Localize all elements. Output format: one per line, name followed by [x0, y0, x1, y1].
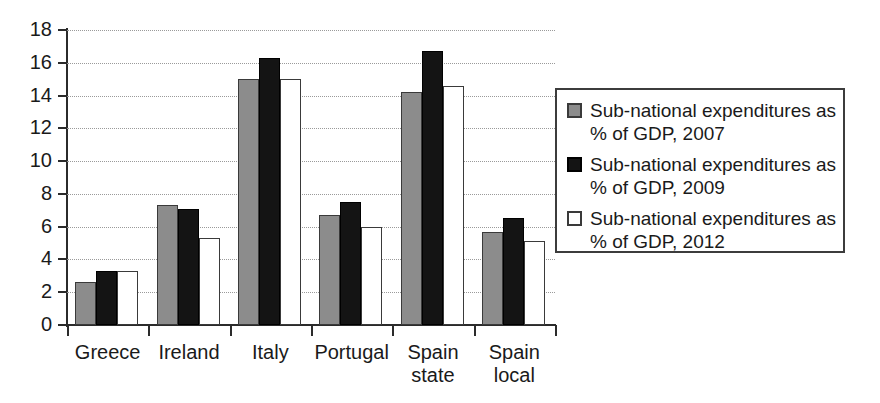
gray-swatch-icon [567, 103, 582, 118]
bar-group [401, 30, 464, 325]
x-axis-category-label: Spainlocal [474, 341, 555, 387]
legend-item[interactable]: Sub-national expenditures as % of GDP, 2… [567, 153, 843, 199]
y-axis-tick [58, 127, 67, 129]
bar [443, 86, 464, 325]
x-axis-tick [230, 325, 232, 336]
x-axis-tick [555, 325, 557, 336]
y-axis-tick [58, 95, 67, 97]
y-axis-tick-label: 0 [4, 314, 52, 334]
bar [199, 238, 220, 325]
legend-item-label: Sub-national expenditures as % of GDP, 2… [590, 207, 838, 253]
x-axis-tick [148, 325, 150, 336]
bar-group [319, 30, 382, 325]
bar [503, 218, 524, 325]
y-axis-tick [58, 291, 67, 293]
bar [280, 79, 301, 325]
bar-chart-figure: 024681012141618 GreeceIrelandItalyPortug… [0, 0, 880, 403]
bar [361, 227, 382, 325]
y-axis-tick-label: 16 [4, 52, 52, 72]
bar [482, 232, 503, 325]
bar-group [157, 30, 220, 325]
bar [259, 58, 280, 325]
x-axis-tick [311, 325, 313, 336]
y-axis-tick [58, 226, 67, 228]
black-swatch-icon [567, 157, 582, 172]
x-axis-category-line: Portugal [311, 341, 392, 364]
y-axis-tick-label: 6 [4, 216, 52, 236]
x-axis-category-line: Greece [67, 341, 148, 364]
bar [401, 92, 422, 325]
y-axis-labels: 024681012141618 [0, 0, 52, 403]
x-axis-category-line: state [392, 364, 473, 387]
x-axis-category-label: Portugal [311, 341, 392, 364]
y-axis-tick [58, 258, 67, 260]
bar [117, 271, 138, 325]
x-axis-category-line: Spain [392, 341, 473, 364]
bar [75, 282, 96, 325]
y-axis-tick-label: 12 [4, 117, 52, 137]
bar [524, 241, 545, 325]
x-axis-category-line: local [474, 364, 555, 387]
bar-group [238, 30, 301, 325]
y-axis-tick [58, 193, 67, 195]
legend-item-label: Sub-national expenditures as % of GDP, 2… [590, 153, 838, 199]
y-axis-tick-label: 18 [4, 19, 52, 39]
x-axis-category-line: Italy [230, 341, 311, 364]
legend-item-label: Sub-national expenditures as % of GDP, 2… [590, 99, 838, 145]
x-axis-category-label: Spainstate [392, 341, 473, 387]
x-axis-category-label: Italy [230, 341, 311, 364]
y-axis-tick-label: 8 [4, 183, 52, 203]
y-axis-tick-label: 10 [4, 150, 52, 170]
legend-item[interactable]: Sub-national expenditures as % of GDP, 2… [567, 207, 843, 253]
y-axis-tick [58, 62, 67, 64]
y-axis-tick [58, 324, 67, 326]
bar-group [75, 30, 138, 325]
legend-item[interactable]: Sub-national expenditures as % of GDP, 2… [567, 99, 843, 145]
bar [319, 215, 340, 325]
y-axis-tick-label: 14 [4, 85, 52, 105]
y-axis-tick-label: 2 [4, 281, 52, 301]
x-axis-category-line: Spain [474, 341, 555, 364]
x-axis-category-label: Ireland [148, 341, 229, 364]
x-axis-tick [392, 325, 394, 336]
x-axis-tick [67, 325, 69, 336]
bar [96, 271, 117, 325]
plot-area [67, 30, 555, 325]
x-axis-category-label: Greece [67, 341, 148, 364]
bar [422, 51, 443, 325]
bar [340, 202, 361, 325]
y-axis-tick [58, 29, 67, 31]
x-axis-tick [474, 325, 476, 336]
chart-legend: Sub-national expenditures as % of GDP, 2… [555, 88, 845, 253]
bar [178, 209, 199, 325]
white-swatch-icon [567, 211, 582, 226]
y-axis-tick-label: 4 [4, 248, 52, 268]
bar-group [482, 30, 545, 325]
bar [238, 79, 259, 325]
x-axis-category-line: Ireland [148, 341, 229, 364]
bar [157, 205, 178, 325]
y-axis-tick [58, 160, 67, 162]
